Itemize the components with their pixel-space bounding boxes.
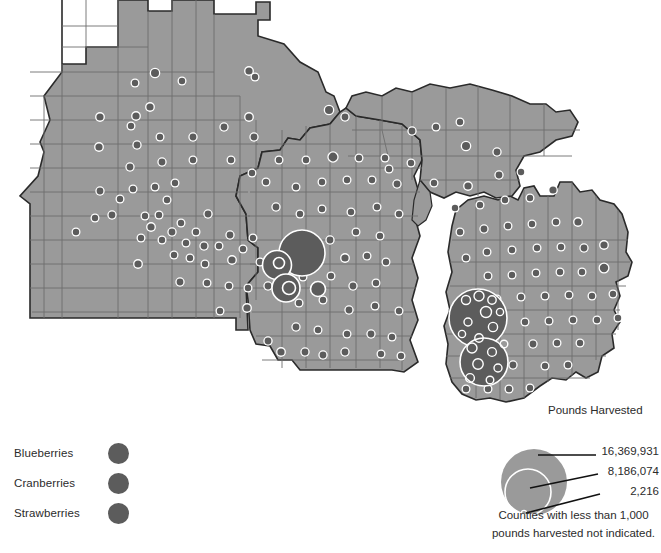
cranberry-inner-south [283,282,296,295]
county-symbol [518,294,524,300]
county-symbol [205,211,212,218]
county-symbol [327,237,334,244]
county-symbol [372,303,378,309]
county-symbol [554,340,560,346]
county-symbol [477,202,483,208]
county-symbol [594,317,600,323]
county-symbol [570,317,576,323]
county-symbol [600,241,607,248]
county-symbol [378,351,384,357]
county-symbol [329,153,338,162]
county-symbol [481,226,488,233]
county-symbol [546,318,552,324]
county-symbol [190,157,196,163]
county-symbol [346,307,353,314]
county-symbol [510,362,517,369]
county-symbol [187,255,193,261]
size-legend-value-large: 16,369,931 [601,445,659,457]
county-symbol [190,134,197,141]
county-symbol [320,297,326,303]
county-symbol [315,327,321,333]
county-symbol [368,331,375,338]
cranberry-inner-west [274,258,285,269]
county-symbol [505,223,511,229]
county-symbol [398,353,404,359]
county-symbol [276,157,282,163]
county-symbol [217,308,223,314]
county-symbol [369,177,375,183]
county-symbol [344,331,350,337]
county-symbol [96,113,103,120]
county-symbol [245,285,251,291]
county-symbol [557,269,563,275]
county-symbol [565,362,571,368]
county-symbol [364,253,370,259]
county-symbol [344,177,350,183]
county-symbol [328,273,334,279]
county-symbol [496,172,503,179]
county-symbol [373,280,379,286]
county-symbol [342,114,349,121]
county-symbol [386,166,392,172]
county-symbol [464,182,471,189]
county-symbol [527,385,533,391]
land-masses [20,0,632,402]
county-symbol [610,291,616,297]
county-symbol [134,142,141,149]
county-symbol [132,80,138,86]
county-symbol [171,252,177,258]
county-symbol [226,283,232,289]
county-symbol [463,386,469,392]
county-symbol [377,233,383,239]
county-symbol [615,315,621,321]
county-symbol [530,341,537,348]
county-symbol [265,338,272,345]
legend-item-cranberries: Cranberries [14,470,129,496]
county-symbol [249,170,255,176]
county-symbol [509,247,515,253]
county-symbol [341,254,348,261]
county-symbol [297,211,303,217]
county-symbol [579,269,585,275]
county-symbol [409,128,416,135]
legend-swatch-strawberries [108,503,129,524]
county-symbol [221,124,228,131]
county-symbol [250,235,256,241]
county-symbol [169,229,176,236]
county-symbol [142,213,148,219]
county-symbol [243,304,250,311]
county-symbol [227,232,234,239]
county-symbol [156,212,162,218]
county-symbol [353,229,359,235]
county-symbol [146,103,153,110]
county-symbol [95,143,102,150]
cranberry-east [311,282,326,297]
county-symbol [92,215,98,221]
county-symbol [204,280,210,286]
county-symbol [581,245,588,252]
county-symbol [252,74,258,80]
county-symbol [522,319,528,325]
size-legend-value-small: 2,216 [630,485,659,497]
county-symbol [293,184,299,190]
county-symbol [485,273,491,279]
county-symbol [240,246,246,252]
county-symbol [216,243,222,249]
county-symbol [463,255,469,261]
county-symbol [383,259,389,265]
county-symbol [164,197,170,203]
county-symbol [245,67,252,74]
county-symbol [389,334,395,340]
county-symbol [128,123,134,129]
county-symbol [396,308,402,314]
county-symbol [542,363,548,369]
size-legend-title: Pounds Harvested [548,404,643,416]
county-symbol [457,229,463,235]
county-symbol [566,292,572,298]
county-symbol [518,169,524,175]
berry-production-map-figure: Blueberries Cranberries Strawberries Pou… [0,0,661,553]
county-symbol [147,223,154,230]
county-symbol [228,256,235,263]
county-symbol [265,283,272,290]
legend-label-blueberries: Blueberries [14,447,100,459]
